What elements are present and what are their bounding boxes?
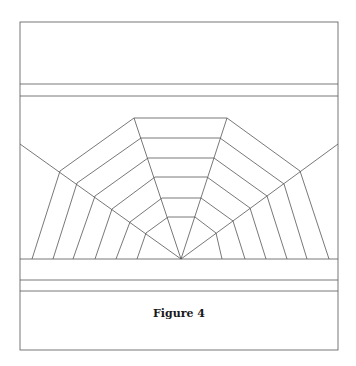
ray-line <box>181 118 227 259</box>
frame <box>20 22 338 350</box>
ring-line <box>73 158 287 259</box>
ring-line <box>116 198 245 259</box>
ray-line <box>181 144 338 259</box>
ring-line <box>32 118 329 259</box>
figure-caption: Figure 4 <box>20 307 338 320</box>
ray-line <box>134 118 181 259</box>
ring-line <box>53 138 307 259</box>
